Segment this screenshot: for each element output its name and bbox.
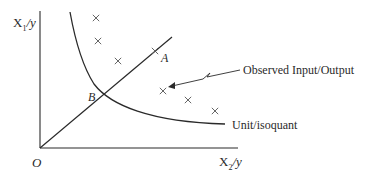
y-axis-label: X1/y [13, 16, 36, 33]
x-axis-label: X2/y [219, 155, 242, 172]
x-axis-label-suffix: /y [232, 154, 241, 169]
y-axis-label-suffix: /y [26, 15, 35, 30]
x-axis-label-main: X [219, 154, 228, 169]
observation-cross-icon [93, 15, 99, 21]
isoquant-annotation: Unit/isoquant [232, 119, 297, 131]
observed-annotation: Observed Input/Output [243, 64, 354, 76]
observation-cross-icon [152, 48, 158, 54]
observation-cross-icon [115, 58, 121, 64]
isoquant-diagram [0, 0, 365, 175]
observation-cross-icon [212, 108, 218, 114]
origin-label: O [32, 156, 41, 169]
y-axis-label-main: X [13, 15, 22, 30]
observation-cross-icon [185, 97, 191, 103]
arrow-head-icon [168, 82, 175, 89]
observation-cross-icon [95, 38, 101, 44]
point-b-label: B [88, 91, 95, 103]
observed-arrow [172, 70, 240, 86]
unit-isoquant-curve [70, 12, 225, 124]
point-a-label: A [161, 52, 168, 64]
observation-cross-icon [160, 88, 166, 94]
